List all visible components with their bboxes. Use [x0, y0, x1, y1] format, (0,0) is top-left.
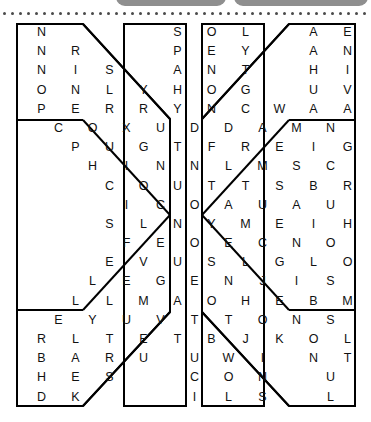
grid-cell-empty[interactable] — [220, 81, 237, 100]
grid-cell-empty[interactable] — [33, 272, 50, 291]
grid-cell-empty[interactable] — [135, 311, 152, 330]
grid-cell-letter[interactable]: M — [288, 119, 305, 138]
grid-cell-empty[interactable] — [322, 42, 339, 61]
grid-cell-empty[interactable] — [152, 349, 169, 368]
grid-cell-empty[interactable] — [16, 119, 33, 138]
grid-cell-empty[interactable] — [118, 253, 135, 272]
grid-cell-letter[interactable]: V — [152, 311, 169, 330]
grid-cell-letter[interactable]: G — [237, 81, 254, 100]
grid-cell-empty[interactable] — [288, 100, 305, 119]
grid-cell-letter[interactable]: S — [254, 388, 271, 407]
grid-cell-empty[interactable] — [237, 157, 254, 176]
grid-cell-empty[interactable] — [237, 388, 254, 407]
grid-cell-empty[interactable] — [101, 272, 118, 291]
grid-cell-letter[interactable]: I — [118, 157, 135, 176]
grid-cell-letter[interactable]: S — [322, 311, 339, 330]
grid-cell-empty[interactable] — [169, 119, 186, 138]
grid-cell-empty[interactable] — [203, 157, 220, 176]
grid-cell-letter[interactable]: P — [169, 42, 186, 61]
grid-cell-empty[interactable] — [220, 61, 237, 80]
grid-cell-letter[interactable]: C — [237, 100, 254, 119]
grid-cell-empty[interactable] — [288, 177, 305, 196]
grid-cell-letter[interactable]: O — [322, 234, 339, 253]
grid-cell-empty[interactable] — [50, 196, 67, 215]
grid-cell-empty[interactable] — [67, 311, 84, 330]
grid-cell-empty[interactable] — [271, 119, 288, 138]
grid-cell-empty[interactable] — [84, 388, 101, 407]
grid-cell-empty[interactable] — [50, 81, 67, 100]
grid-cell-letter[interactable]: C — [254, 234, 271, 253]
grid-cell-empty[interactable] — [84, 215, 101, 234]
grid-cell-letter[interactable]: R — [33, 330, 50, 349]
grid-cell-letter[interactable]: R — [237, 138, 254, 157]
grid-cell-letter[interactable]: N — [254, 368, 271, 387]
grid-cell-empty[interactable] — [220, 330, 237, 349]
grid-cell-empty[interactable] — [254, 292, 271, 311]
grid-cell-letter[interactable]: T — [237, 61, 254, 80]
grid-cell-letter[interactable]: B — [203, 330, 220, 349]
grid-cell-empty[interactable] — [84, 349, 101, 368]
grid-cell-empty[interactable] — [16, 138, 33, 157]
grid-cell-empty[interactable] — [237, 119, 254, 138]
grid-cell-letter[interactable]: H — [169, 81, 186, 100]
grid-cell-letter[interactable]: V — [135, 253, 152, 272]
grid-cell-letter[interactable]: A — [305, 23, 322, 42]
grid-cell-empty[interactable] — [305, 311, 322, 330]
grid-cell-empty[interactable] — [169, 349, 186, 368]
grid-cell-empty[interactable] — [305, 119, 322, 138]
grid-cell-empty[interactable] — [33, 119, 50, 138]
grid-cell-empty[interactable] — [288, 253, 305, 272]
grid-cell-letter[interactable]: U — [322, 196, 339, 215]
grid-cell-letter[interactable]: O — [305, 330, 322, 349]
grid-cell-empty[interactable] — [288, 61, 305, 80]
grid-cell-letter[interactable]: Y — [135, 81, 152, 100]
grid-cell-empty[interactable] — [101, 23, 118, 42]
grid-cell-empty[interactable] — [152, 330, 169, 349]
grid-cell-letter[interactable]: O — [254, 311, 271, 330]
grid-cell-letter[interactable]: K — [67, 388, 84, 407]
grid-cell-letter[interactable]: E — [271, 138, 288, 157]
grid-cell-empty[interactable] — [16, 368, 33, 387]
grid-cell-empty[interactable] — [220, 138, 237, 157]
grid-cell-empty[interactable] — [16, 311, 33, 330]
grid-cell-letter[interactable]: T — [339, 349, 356, 368]
grid-cell-empty[interactable] — [322, 330, 339, 349]
grid-cell-empty[interactable] — [50, 253, 67, 272]
grid-cell-letter[interactable]: T — [203, 177, 220, 196]
grid-cell-empty[interactable] — [220, 100, 237, 119]
grid-cell-empty[interactable] — [322, 100, 339, 119]
grid-cell-letter[interactable]: N — [322, 119, 339, 138]
grid-cell-empty[interactable] — [271, 23, 288, 42]
grid-cell-letter[interactable]: A — [169, 292, 186, 311]
grid-cell-letter[interactable]: P — [67, 138, 84, 157]
grid-cell-empty[interactable] — [271, 81, 288, 100]
grid-cell-empty[interactable] — [288, 349, 305, 368]
grid-cell-letter[interactable]: N — [152, 157, 169, 176]
grid-cell-empty[interactable] — [305, 368, 322, 387]
grid-cell-empty[interactable] — [186, 330, 203, 349]
grid-cell-letter[interactable]: L — [220, 157, 237, 176]
grid-cell-empty[interactable] — [67, 177, 84, 196]
grid-cell-empty[interactable] — [169, 234, 186, 253]
grid-cell-letter[interactable]: Y — [84, 311, 101, 330]
grid-cell-letter[interactable]: C — [50, 119, 67, 138]
grid-cell-empty[interactable] — [254, 81, 271, 100]
grid-cell-letter[interactable]: Y — [203, 215, 220, 234]
grid-cell-letter[interactable]: A — [67, 349, 84, 368]
grid-cell-letter[interactable]: H — [237, 292, 254, 311]
grid-cell-empty[interactable] — [67, 272, 84, 291]
grid-cell-letter[interactable]: F — [118, 234, 135, 253]
grid-cell-empty[interactable] — [101, 157, 118, 176]
grid-cell-empty[interactable] — [237, 368, 254, 387]
grid-cell-empty[interactable] — [254, 215, 271, 234]
grid-cell-empty[interactable] — [135, 119, 152, 138]
grid-cell-letter[interactable]: E — [186, 272, 203, 291]
grid-cell-empty[interactable] — [67, 119, 84, 138]
grid-cell-empty[interactable] — [118, 330, 135, 349]
grid-cell-empty[interactable] — [118, 100, 135, 119]
grid-cell-empty[interactable] — [203, 196, 220, 215]
grid-cell-letter[interactable]: E — [118, 272, 135, 291]
grid-cell-letter[interactable]: O — [135, 177, 152, 196]
grid-cell-empty[interactable] — [16, 388, 33, 407]
grid-cell-letter[interactable]: I — [339, 61, 356, 80]
